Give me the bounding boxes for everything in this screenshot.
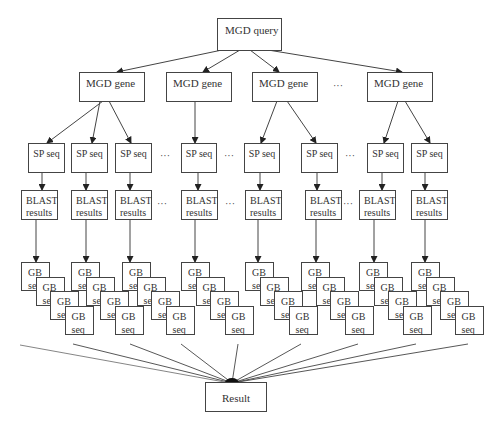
blast-results-node: BLAST results: [245, 190, 282, 220]
gb-seq-node: GB seq: [115, 306, 144, 335]
node-label: GB seq: [173, 310, 193, 336]
node-label: BLAST results: [120, 195, 154, 219]
node-label: SP seq: [72, 148, 107, 160]
blast-results-node: BLAST results: [21, 190, 58, 220]
node-label: MGD gene: [86, 77, 135, 89]
node-label: SP seq: [245, 148, 279, 160]
node-label: SP seq: [368, 148, 403, 160]
node-label: SP seq: [412, 148, 447, 160]
gb-seq-node: GB seq: [455, 306, 484, 335]
node-label: SP seq: [29, 148, 64, 160]
node-label: BLAST results: [250, 195, 284, 219]
ellipsis: ···: [157, 198, 167, 209]
blast-results-node: BLAST results: [305, 190, 342, 220]
result-node: Result: [205, 382, 267, 412]
sp-seq-node: SP seq: [71, 143, 108, 173]
gb-seq-node: GB seq: [289, 306, 318, 335]
sp-seq-node: SP seq: [301, 143, 338, 173]
blast-results-node: BLAST results: [411, 190, 448, 220]
ellipsis: ···: [345, 150, 355, 161]
mgd-gene-node: MGD gene: [166, 72, 232, 102]
node-label: MGD gene: [374, 77, 423, 89]
blast-results-node: BLAST results: [115, 190, 152, 220]
node-label: BLAST results: [416, 195, 450, 219]
mgd-query-node: MGD query: [217, 18, 282, 51]
node-label: SP seq: [116, 148, 151, 160]
ellipsis: ···: [225, 198, 235, 209]
ellipsis: ···: [224, 150, 234, 161]
node-label: GB seq: [122, 310, 142, 336]
sp-seq-node: SP seq: [367, 143, 404, 173]
sp-seq-node: SP seq: [411, 143, 448, 173]
node-label: Result: [206, 392, 266, 404]
gb-seq-node: GB seq: [65, 306, 94, 335]
blast-results-node: BLAST results: [71, 190, 108, 220]
node-label: GB seq: [232, 310, 252, 336]
node-label: BLAST results: [310, 195, 344, 219]
sp-seq-node: SP seq: [181, 143, 217, 173]
sp-seq-node: SP seq: [244, 143, 280, 173]
node-label: GB seq: [72, 310, 92, 336]
gb-seq-node: GB seq: [403, 306, 432, 335]
node-label: SP seq: [302, 148, 337, 160]
ellipsis: ···: [160, 150, 170, 161]
ellipsis: ···: [343, 198, 353, 209]
gb-seq-node: GB seq: [166, 306, 195, 335]
gb-seq-node: GB seq: [345, 306, 374, 335]
node-label: MGD gene: [173, 77, 222, 89]
node-label: GB seq: [352, 310, 372, 336]
blast-results-node: BLAST results: [359, 190, 396, 220]
mgd-gene-node: MGD gene: [252, 72, 318, 102]
sp-seq-node: SP seq: [28, 143, 65, 173]
mgd-gene-node: MGD gene: [79, 72, 145, 102]
node-label: MGD query: [225, 24, 278, 36]
node-label: SP seq: [182, 148, 216, 160]
node-label: BLAST results: [26, 195, 60, 219]
gb-seq-node: GB seq: [225, 306, 254, 335]
node-label: BLAST results: [76, 195, 110, 219]
node-label: MGD gene: [259, 77, 308, 89]
ellipsis: ···: [333, 80, 343, 91]
node-label: BLAST results: [364, 195, 398, 219]
mgd-gene-node: MGD gene: [367, 72, 433, 102]
node-label: GB seq: [410, 310, 430, 336]
node-label: BLAST results: [186, 195, 220, 219]
blast-results-node: BLAST results: [181, 190, 218, 220]
sp-seq-node: SP seq: [115, 143, 152, 173]
node-label: GB seq: [296, 310, 316, 336]
node-label: GB seq: [462, 310, 482, 336]
